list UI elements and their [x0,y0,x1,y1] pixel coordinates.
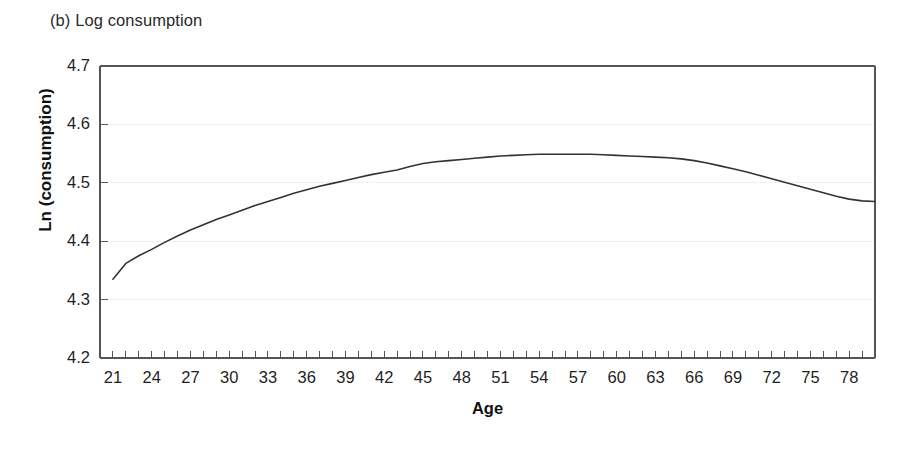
x-tick-label: 54 [521,368,557,387]
y-tick-label: 4.6 [44,114,90,133]
x-tick-label: 33 [250,368,286,387]
x-tick-label: 66 [676,368,712,387]
x-tick-label: 63 [637,368,673,387]
x-tick-label: 60 [599,368,635,387]
y-tick-label: 4.7 [44,56,90,75]
y-axis-ticks-group [100,66,108,358]
y-tick-label: 4.5 [44,173,90,192]
y-tick-label: 4.2 [44,348,90,367]
x-tick-label: 36 [289,368,325,387]
x-tick-label: 30 [211,368,247,387]
x-tick-label: 72 [754,368,790,387]
x-tick-label: 24 [134,368,170,387]
x-tick-label: 51 [482,368,518,387]
x-tick-label: 42 [366,368,402,387]
x-tick-label: 69 [715,368,751,387]
y-tick-label: 4.4 [44,231,90,250]
x-tick-label: 75 [792,368,828,387]
x-tick-label: 21 [95,368,131,387]
plot-frame [100,66,875,358]
x-axis-ticks-group [113,351,875,358]
figure-container: (b) Log consumption Ln (consumption) 4.2… [0,0,897,454]
x-tick-label: 57 [560,368,596,387]
x-tick-label: 78 [831,368,867,387]
y-tick-label: 4.3 [44,290,90,309]
x-tick-label: 48 [444,368,480,387]
x-axis-label: Age [100,399,875,418]
x-tick-label: 27 [172,368,208,387]
data-series-line [113,154,875,279]
x-tick-label: 45 [405,368,441,387]
x-tick-label: 39 [327,368,363,387]
gridlines-group [100,66,875,300]
